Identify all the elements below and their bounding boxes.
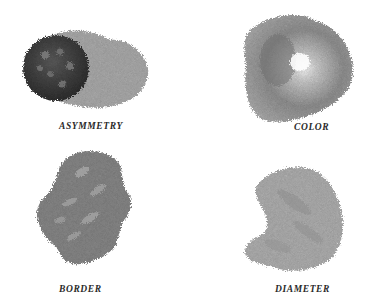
label-asymmetry: ASYMMETRY [59, 121, 123, 131]
diameter-lesion-illustration [186, 150, 372, 280]
label-color: COLOR [294, 122, 329, 132]
panel-border: BORDER [0, 150, 186, 306]
panel-asymmetry: ASYMMETRY [0, 0, 186, 150]
asymmetric-lesion-illustration [0, 0, 186, 120]
border-lesion-illustration [0, 150, 186, 280]
panel-diameter: DIAMETER [186, 150, 372, 306]
label-diameter: DIAMETER [275, 284, 330, 294]
color-lesion-illustration [186, 0, 372, 125]
label-border: BORDER [59, 284, 102, 294]
panel-color: COLOR [186, 0, 372, 150]
